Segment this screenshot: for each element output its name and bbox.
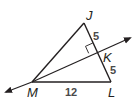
label-l: L [108, 85, 115, 100]
right-angle-marker-icon [86, 43, 93, 53]
measure-kl: 5 [110, 64, 116, 76]
label-j: J [85, 8, 93, 23]
segment-mj [32, 23, 84, 82]
label-m: M [27, 85, 38, 100]
label-k: K [103, 50, 113, 65]
measure-ml: 12 [65, 86, 77, 98]
measure-jk: 5 [93, 30, 99, 42]
diagram-canvas: J K L M 5 5 12 [0, 0, 136, 105]
